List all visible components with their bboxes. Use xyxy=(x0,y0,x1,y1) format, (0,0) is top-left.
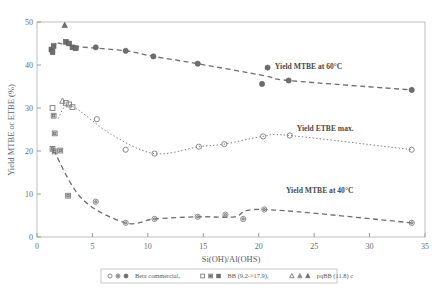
y-tick-label: 10 xyxy=(25,190,33,199)
y-tick-label: 20 xyxy=(25,147,33,156)
marker-half-circle-core xyxy=(117,275,119,277)
marker-filled-square xyxy=(50,50,55,55)
chart-legend: Beta commercial,BB (9.2->17.9),pqBB (11.… xyxy=(101,269,353,283)
chart-figure: 05101520253035 01020304050 Yield MTBE at… xyxy=(0,0,438,291)
marker-filled-circle xyxy=(93,45,98,50)
x-tick-label: 20 xyxy=(255,242,263,251)
marker-filled-square xyxy=(51,44,56,49)
y-tick-label: 30 xyxy=(25,104,33,113)
marker-filled-circle xyxy=(151,54,156,59)
legend-items: Beta commercial,BB (9.2->17.9),pqBB (11.… xyxy=(108,272,353,280)
marker-half-square-core xyxy=(210,275,212,277)
annotation-0: Yield MTBE at 60°C xyxy=(275,62,343,71)
y-tick-label: 50 xyxy=(25,18,33,27)
marker-filled-circle xyxy=(123,48,128,53)
x-tick-label: 15 xyxy=(199,242,207,251)
marker-filled-circle xyxy=(265,65,270,70)
x-tick-label: 30 xyxy=(366,242,374,251)
legend-label-1: BB (9.2->17.9), xyxy=(228,272,269,280)
plot-area-border xyxy=(37,22,425,237)
marker-half-circle-core xyxy=(153,218,155,220)
marker-filled-circle xyxy=(409,87,414,92)
x-tick-label: 25 xyxy=(310,242,318,251)
marker-half-triangle-core xyxy=(299,275,301,277)
x-axis-title: Si(OH)/Al(OHS) xyxy=(202,254,261,264)
marker-half-square-core xyxy=(59,149,61,151)
marker-half-circle-core xyxy=(263,208,265,210)
marker-filled-circle xyxy=(259,81,264,86)
y-tick-label: 0 xyxy=(29,233,33,242)
marker-half-circle-core xyxy=(224,213,226,215)
marker-filled-circle xyxy=(124,274,128,278)
marker-half-square-core xyxy=(52,115,54,117)
marker-half-circle-core xyxy=(242,218,244,220)
marker-filled-circle xyxy=(195,61,200,66)
marker-half-square-core xyxy=(54,150,56,152)
annotation-1: Yield ETBE max. xyxy=(297,124,354,133)
plot-frame xyxy=(37,22,425,237)
marker-filled-circle xyxy=(286,78,291,83)
y-axis-title: Yield MTBE or ETBE (%) xyxy=(6,84,16,176)
x-tick-label: 5 xyxy=(90,242,94,251)
x-tick-label: 0 xyxy=(35,242,39,251)
chart-svg: 05101520253035 01020304050 Yield MTBE at… xyxy=(0,0,438,291)
marker-half-square-core xyxy=(54,132,56,134)
x-tick-label: 10 xyxy=(144,242,152,251)
legend-label-2: pqBB (11.8) c xyxy=(317,272,353,280)
marker-half-circle-core xyxy=(197,216,199,218)
marker-filled-square xyxy=(217,274,221,278)
y-tick-label: 40 xyxy=(25,61,33,70)
marker-filled-square xyxy=(73,46,78,51)
marker-half-circle-core xyxy=(95,201,97,203)
annotation-2: Yield MTBE at 40°C xyxy=(286,186,354,195)
marker-half-square-core xyxy=(67,195,69,197)
x-tick-label: 35 xyxy=(421,242,429,251)
legend-label-0: Beta commercial, xyxy=(135,272,180,279)
marker-half-circle-core xyxy=(411,222,413,224)
marker-half-circle-core xyxy=(125,222,127,224)
